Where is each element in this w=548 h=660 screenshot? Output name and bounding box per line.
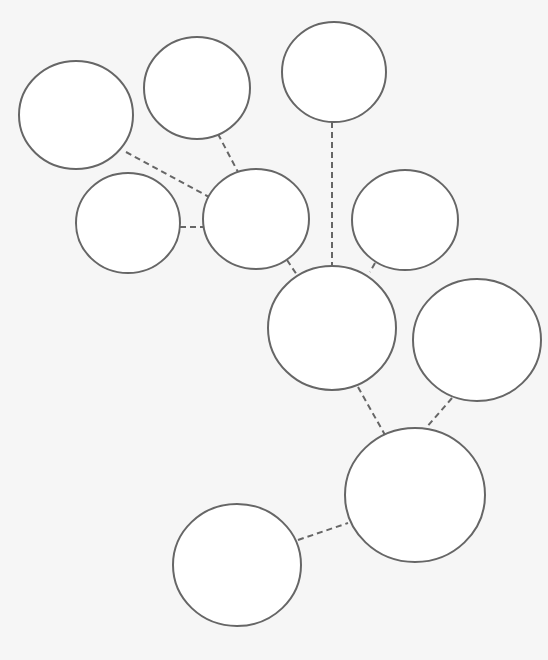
- node-e: [203, 169, 309, 269]
- node-j: [173, 504, 301, 626]
- node-a: [19, 61, 133, 169]
- node-b: [144, 37, 250, 139]
- node-c: [282, 22, 386, 122]
- node-i: [345, 428, 485, 562]
- edge-j-i: [298, 523, 348, 540]
- node-h: [413, 279, 541, 401]
- node-g: [268, 266, 396, 390]
- diagram-canvas: [0, 0, 548, 660]
- node-link-diagram: [0, 0, 548, 660]
- edge-g-i: [358, 387, 385, 435]
- nodes-layer: [19, 22, 541, 626]
- edge-e-g: [287, 260, 297, 275]
- node-f: [352, 170, 458, 270]
- edge-b-e: [218, 134, 238, 172]
- edge-h-i: [426, 398, 452, 428]
- node-d: [76, 173, 180, 273]
- edge-f-g: [370, 263, 375, 272]
